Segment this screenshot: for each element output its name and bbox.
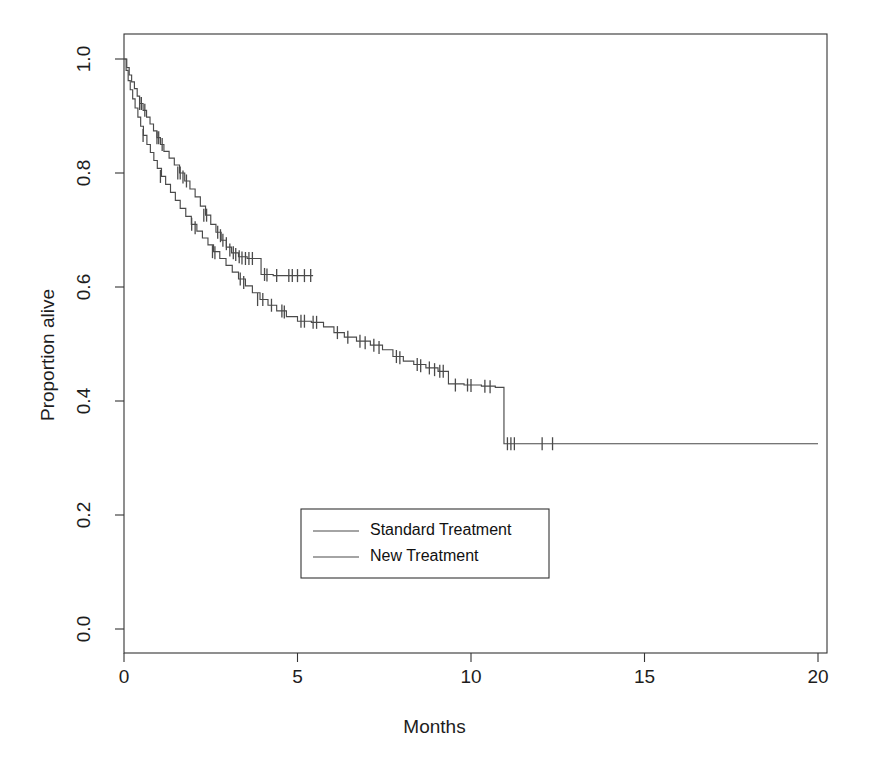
y-tick-label-4: 0.8: [73, 143, 95, 203]
y-tick-label-1: 0.2: [73, 485, 95, 545]
censoring-marks: [140, 97, 553, 450]
survival-curve-new-treatment: [124, 59, 313, 276]
legend-label-1: New Treatment: [370, 547, 478, 565]
y-axis-title: Proportion alive: [37, 225, 59, 485]
x-tick-label-3: 15: [615, 666, 675, 688]
plot-canvas: [0, 0, 869, 764]
x-axis-title: Months: [0, 716, 869, 738]
x-tick-label-0: 0: [94, 666, 154, 688]
legend-box: [301, 509, 549, 578]
legend-label-0: Standard Treatment: [370, 521, 511, 539]
y-tick-label-5: 1.0: [73, 29, 95, 89]
kaplan-meier-figure: Months Proportion alive 05101520 0.00.20…: [0, 0, 869, 764]
y-tick-label-2: 0.4: [73, 371, 95, 431]
x-tick-label-2: 10: [441, 666, 501, 688]
y-tick-label-3: 0.6: [73, 257, 95, 317]
x-tick-label-4: 20: [788, 666, 848, 688]
figure-title: [0, 0, 869, 3]
y-tick-label-0: 0.0: [73, 599, 95, 659]
x-tick-label-1: 5: [268, 666, 328, 688]
